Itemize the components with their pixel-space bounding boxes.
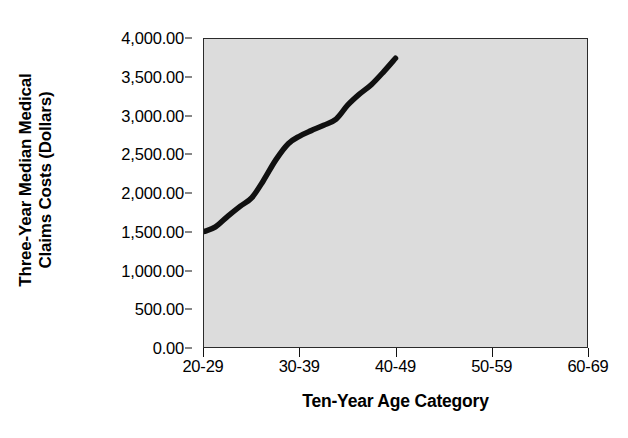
line-series-svg xyxy=(204,39,587,347)
x-axis-tick-marks xyxy=(203,348,588,357)
y-axis-title: Three-Year Median Medical Claims Costs (… xyxy=(0,0,72,360)
chart-figure: Three-Year Median Medical Claims Costs (… xyxy=(0,0,628,438)
y-axis-tick-mark xyxy=(185,154,192,155)
y-axis-tick-mark xyxy=(185,348,192,349)
series-line-path xyxy=(204,58,396,231)
y-axis-tick-mark xyxy=(185,38,192,39)
y-axis-tick-label: 0.00 xyxy=(153,339,184,358)
y-axis-tick-label: 2,000.00 xyxy=(121,184,184,203)
x-axis-tick-mark xyxy=(492,348,493,357)
y-axis-tick-mark xyxy=(185,270,192,271)
x-axis-tick-label: 30-39 xyxy=(279,357,320,376)
y-axis-tick-label: 3,500.00 xyxy=(121,67,184,86)
x-axis-tick-mark xyxy=(299,348,300,357)
y-axis-tick-label: 2,500.00 xyxy=(121,145,184,164)
x-axis-tick-mark xyxy=(203,348,204,357)
y-axis-tick-label: 1,500.00 xyxy=(121,222,184,241)
x-axis-tick-label: 50-59 xyxy=(471,357,512,376)
plot-area xyxy=(203,38,588,348)
y-axis-tick-label: 4,000.00 xyxy=(121,29,184,48)
y-axis-tick-label: 500.00 xyxy=(135,300,184,319)
y-axis-tick-label: 3,000.00 xyxy=(121,106,184,125)
y-axis-tick-label: 1,000.00 xyxy=(121,261,184,280)
y-axis-tick-mark xyxy=(185,231,192,232)
x-axis-tick-label: 20-29 xyxy=(182,357,223,376)
y-axis-tick-mark xyxy=(185,115,192,116)
x-axis-tick-mark xyxy=(396,348,397,357)
y-axis-title-line-2: Claims Costs (Dollars) xyxy=(36,73,56,286)
y-axis-tick-mark xyxy=(185,193,192,194)
x-axis-tick-label: 60-69 xyxy=(567,357,608,376)
x-axis-title: Ten-Year Age Category xyxy=(203,391,588,412)
y-axis-tick-labels: 0.00500.001,000.001,500.002,000.002,500.… xyxy=(72,38,192,348)
x-axis-tick-mark xyxy=(588,348,589,357)
y-axis-title-line-1: Three-Year Median Medical xyxy=(16,73,36,286)
x-axis-tick-labels: 20-2930-3940-4950-5960-69 xyxy=(203,357,588,383)
y-axis-tick-mark xyxy=(185,76,192,77)
x-axis-tick-label: 40-49 xyxy=(375,357,416,376)
y-axis-tick-mark xyxy=(185,309,192,310)
